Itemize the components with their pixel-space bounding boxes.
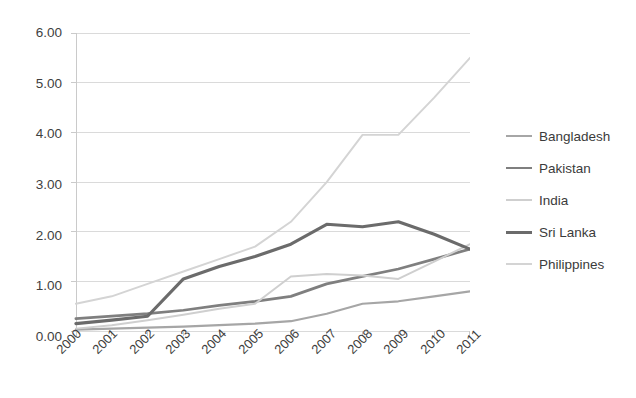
legend-swatch-icon xyxy=(506,135,532,137)
y-tick-label: 4.00 xyxy=(0,128,62,142)
series-line-bangladesh xyxy=(76,291,470,329)
legend-swatch-icon xyxy=(506,263,532,265)
legend-label: India xyxy=(539,193,568,208)
y-axis: 0.001.002.003.004.005.006.00 xyxy=(0,33,62,337)
plot-svg xyxy=(70,33,470,337)
legend-label: Pakistan xyxy=(539,161,591,176)
series-line-pakistan xyxy=(76,249,470,319)
legend-item-india[interactable]: India xyxy=(506,184,632,216)
y-tick-label: 5.00 xyxy=(0,77,62,91)
y-tick-label: 3.00 xyxy=(0,178,62,192)
legend-item-bangladesh[interactable]: Bangladesh xyxy=(506,120,632,152)
chart-legend: BangladeshPakistanIndiaSri LankaPhilippi… xyxy=(506,120,632,280)
x-axis: 2000200120022003200420052006200720082009… xyxy=(70,337,470,395)
line-chart: 0.001.002.003.004.005.006.00 20002001200… xyxy=(0,0,636,398)
legend-label: Sri Lanka xyxy=(539,225,596,240)
legend-label: Bangladesh xyxy=(539,129,610,144)
legend-item-philippines[interactable]: Philippines xyxy=(506,248,632,280)
legend-swatch-icon xyxy=(506,167,532,169)
y-tick-label: 6.00 xyxy=(0,26,62,40)
y-tick-label: 0.00 xyxy=(0,330,62,344)
legend-swatch-icon xyxy=(506,231,532,234)
legend-swatch-icon xyxy=(506,199,532,201)
legend-label: Philippines xyxy=(539,257,604,272)
y-tick-label: 1.00 xyxy=(0,280,62,294)
plot-area xyxy=(70,33,470,337)
legend-item-sri-lanka[interactable]: Sri Lanka xyxy=(506,216,632,248)
legend-item-pakistan[interactable]: Pakistan xyxy=(506,152,632,184)
y-tick-label: 2.00 xyxy=(0,229,62,243)
